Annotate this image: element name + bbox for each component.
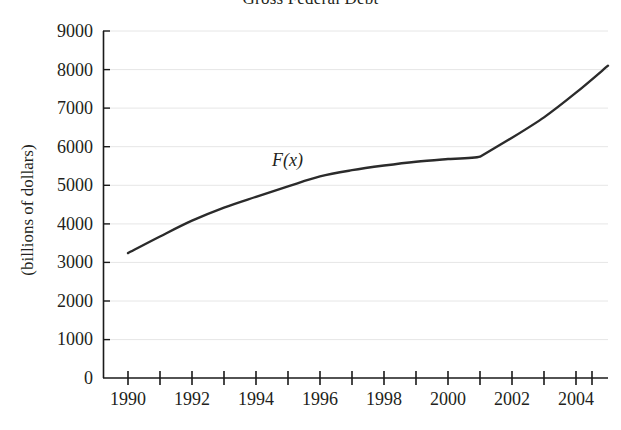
x-tick-label: 1992 bbox=[157, 390, 227, 408]
x-tick-label: 2002 bbox=[477, 390, 547, 408]
x-tick-label: 2004 bbox=[541, 390, 611, 408]
chart-figure: Gross Federal Debt (billions of dollars)… bbox=[0, 0, 621, 430]
x-tick-label: 1998 bbox=[349, 390, 419, 408]
x-tick-label: 1994 bbox=[221, 390, 291, 408]
x-tick-label: 1990 bbox=[93, 390, 163, 408]
x-tick-label: 2000 bbox=[413, 390, 483, 408]
x-tick-label: 1996 bbox=[285, 390, 355, 408]
x-tick-labels: 1990 1992 1994 1996 1998 2000 2002 2004 bbox=[0, 0, 621, 430]
